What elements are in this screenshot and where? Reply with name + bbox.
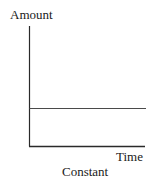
chart-caption: Constant	[62, 165, 108, 178]
x-axis-label: Time	[116, 150, 143, 163]
y-axis-label: Amount	[10, 8, 53, 21]
